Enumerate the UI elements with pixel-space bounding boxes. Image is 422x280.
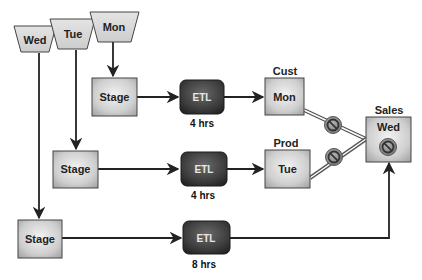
target-sales-label: Wed [377,121,400,133]
stage-2-label: Stage [61,163,91,175]
target-cust-title: Cust [273,65,298,77]
target-sales-title: Sales [375,104,404,116]
stage-1-label: Stage [100,91,130,103]
etl-3-label: ETL [197,233,216,244]
etl-1-label: ETL [193,92,212,103]
etl-2-label: ETL [195,164,214,175]
etl-block-3: ETL 8 hrs [183,221,230,270]
no-entry-icon [380,139,397,156]
target-prod-label: Tue [278,163,297,175]
stage-box-2: Stage [53,151,98,188]
source-mon-label: Mon [103,21,126,33]
etl-block-1: ETL 4 hrs [180,80,224,129]
stage-3-label: Stage [25,233,55,245]
etl-3-duration: 8 hrs [192,259,216,270]
target-cust-label: Mon [273,91,296,103]
etl-2-duration: 4 hrs [191,190,215,201]
no-entry-icon [325,117,342,134]
stage-box-1: Stage [92,78,137,116]
etl-1-duration: 4 hrs [190,118,214,129]
etl-block-2: ETL 4 hrs [181,152,227,201]
target-prod-title: Prod [273,137,298,149]
stage-box-3: Stage [18,220,62,258]
source-wed-label: Wed [23,34,46,46]
source-tue-label: Tue [64,28,83,40]
source-tue: Tue [50,19,95,49]
no-entry-icon [326,149,343,166]
target-cust: Cust Mon [265,65,304,115]
source-wed: Wed [14,26,56,52]
connectors [39,42,389,238]
target-prod: Prod Tue [265,137,310,188]
source-mon: Mon [90,12,139,42]
etl-dependency-diagram: Wed Tue Mon Stage Stage Stage ETL 4 hrs … [0,0,422,280]
